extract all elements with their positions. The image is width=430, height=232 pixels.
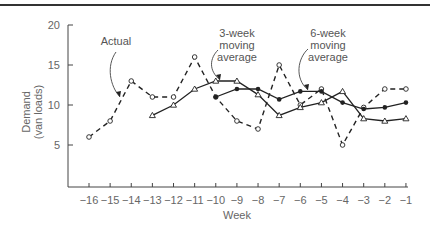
x-tick-label: −10 (206, 194, 225, 206)
series-line (216, 89, 406, 109)
y-axis-title: (van loads) (32, 85, 44, 139)
annotation-2: 6-weekmovingaverage (299, 27, 348, 90)
y-tick-label: 20 (48, 19, 60, 31)
x-tick-label: −16 (80, 194, 99, 206)
series-6-week-moving-average (213, 87, 408, 112)
data-point-circle (87, 135, 92, 140)
y-tick-label: 15 (48, 59, 60, 71)
data-point-dot (277, 97, 282, 102)
y-tick-label: 10 (48, 99, 60, 111)
annotation-label: average (308, 51, 348, 63)
data-point-circle (129, 79, 134, 84)
data-point-circle (171, 95, 176, 100)
x-tick-label: −5 (315, 194, 328, 206)
annotation-label: Actual (101, 35, 132, 47)
series-line (89, 57, 406, 145)
x-tick-label: −8 (252, 194, 265, 206)
annotation-label: average (217, 51, 257, 63)
series-layer (87, 55, 409, 148)
annotation-label: 3-week (219, 27, 255, 39)
x-tick-label: −3 (357, 194, 370, 206)
y-axis-title: Demand (20, 91, 32, 133)
x-tick-label: −9 (231, 194, 244, 206)
x-tick-label: −14 (122, 194, 141, 206)
data-point-circle (235, 119, 240, 124)
data-point-dot (383, 105, 388, 110)
x-tick-label: −15 (101, 194, 120, 206)
data-point-dot (298, 89, 303, 94)
x-tick-label: −4 (336, 194, 349, 206)
data-point-circle (150, 95, 155, 100)
y-tick-label: 5 (54, 139, 60, 151)
annotation-1: 3-weekmovingaverage (212, 27, 257, 80)
data-point-circle (404, 87, 409, 92)
x-tick-label: −6 (294, 194, 307, 206)
data-point-circle (108, 119, 113, 124)
x-tick-label: −11 (186, 194, 204, 206)
annotation-arrow (110, 52, 120, 97)
annotation-label: moving (219, 39, 254, 51)
x-tick-label: −7 (273, 194, 286, 206)
x-tick-label: −13 (143, 194, 162, 206)
data-point-triangle (255, 92, 261, 97)
data-point-circle (256, 127, 261, 132)
x-tick-label: −1 (400, 194, 413, 206)
series-actual (87, 55, 409, 148)
data-point-circle (383, 87, 388, 92)
annotation-label: moving (310, 39, 345, 51)
axes: 5101520−16−15−14−13−12−11−10−9−8−7−6−5−4… (20, 19, 412, 221)
data-point-dot (213, 95, 218, 100)
arrowhead-icon (116, 91, 121, 97)
data-point-dot (404, 100, 409, 105)
demand-line-chart: 5101520−16−15−14−13−12−11−10−9−8−7−6−5−4… (0, 0, 430, 232)
annotation-label: 6-week (310, 27, 346, 39)
data-point-dot (319, 89, 324, 94)
annotations: Actual3-weekmovingaverage6-weekmovingave… (101, 27, 348, 97)
data-point-dot (256, 87, 261, 92)
x-tick-label: −12 (164, 194, 183, 206)
annotation-0: Actual (101, 35, 132, 97)
annotation-arrow (299, 49, 308, 90)
data-point-dot (340, 100, 345, 105)
data-point-dot (361, 107, 366, 112)
x-tick-label: −2 (379, 194, 392, 206)
data-point-circle (340, 143, 345, 148)
data-point-circle (277, 63, 282, 68)
x-axis-title: Week (223, 209, 251, 221)
data-point-triangle (340, 88, 346, 93)
data-point-circle (192, 55, 197, 60)
data-point-dot (235, 87, 240, 92)
